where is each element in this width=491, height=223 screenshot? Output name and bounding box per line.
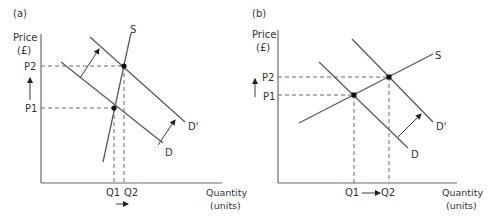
panel-a-label: (a) xyxy=(13,8,27,19)
panel-a-ylabel-unit: (£) xyxy=(17,45,31,56)
panel-a-p1-label: P1 xyxy=(25,103,37,114)
panel-b-xlabel: Quantity xyxy=(442,187,483,198)
panel-a-xlabel: Quantity xyxy=(206,187,247,198)
panel-a-xlabel-unit: (units) xyxy=(210,200,241,211)
panel-b-ylabel: Price xyxy=(252,29,276,40)
panel-b-d-prime-label: D' xyxy=(436,121,446,132)
panel-b-equilibrium-2 xyxy=(387,75,392,80)
panel-a-d-prime-label: D' xyxy=(188,121,198,132)
panel-b-supply-curve xyxy=(299,54,433,123)
panel-a-equilibrium-2 xyxy=(121,63,126,68)
panel-b-p2-label: P2 xyxy=(262,72,274,83)
panel-b-demand-prime-curve xyxy=(352,39,433,122)
panel-b-q1-label: Q1 xyxy=(345,187,359,198)
panel-a-q1-label: Q1 xyxy=(106,187,120,198)
panel-b-s-label: S xyxy=(435,50,441,61)
panel-a-d-label: D xyxy=(165,147,173,158)
panel-a-p2-label: P2 xyxy=(24,61,36,72)
panel-a: (a) Price (£) P2 P1 S D D' Q1 Q2 xyxy=(13,8,247,211)
panel-a-equilibrium-1 xyxy=(111,105,116,110)
panel-a-shift-arrow-upper-icon xyxy=(80,49,99,78)
panel-b-label: (b) xyxy=(252,8,266,19)
panel-b-equilibrium-1 xyxy=(352,93,357,98)
panel-a-q2-label: Q2 xyxy=(124,187,138,198)
panel-b-shift-arrow-icon xyxy=(398,114,421,137)
panel-b: (b) Price (£) P2 P1 S D D' Q1 Q2 Qua xyxy=(252,8,483,211)
supply-demand-figure: (a) Price (£) P2 P1 S D D' Q1 Q2 xyxy=(0,0,491,223)
panel-b-p1-label: P1 xyxy=(263,91,275,102)
panel-a-ylabel: Price xyxy=(13,32,37,43)
panel-a-demand-curve xyxy=(61,62,163,143)
panel-a-demand-prime-curve xyxy=(90,37,185,122)
panel-b-xlabel-unit: (units) xyxy=(446,200,477,211)
panel-b-ylabel-unit: (£) xyxy=(256,42,270,53)
panel-a-shift-arrow-lower-icon xyxy=(158,120,175,145)
panel-b-d-label: D xyxy=(411,149,419,160)
panel-b-q2-label: Q2 xyxy=(381,187,395,198)
panel-b-demand-curve xyxy=(319,62,408,148)
panel-a-s-label: S xyxy=(130,24,136,35)
